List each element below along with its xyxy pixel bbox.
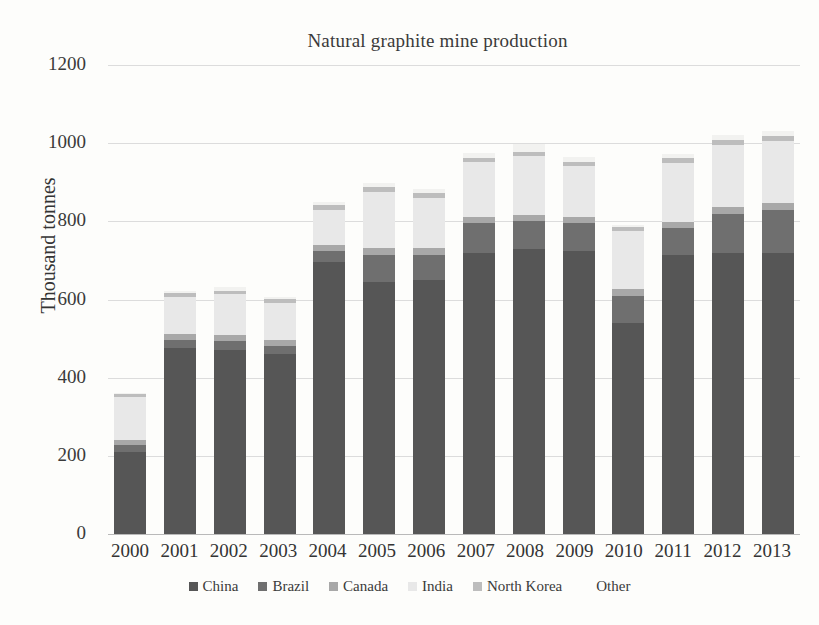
legend-swatch-canada-icon	[329, 582, 338, 591]
bar-segment-brazil-2010[interactable]	[612, 296, 644, 323]
legend-swatch-other-icon	[582, 582, 591, 591]
y-axis-title: Thousand tonnes	[37, 136, 60, 356]
bar-segment-india-2012[interactable]	[712, 145, 744, 208]
y-tick-label-800: 800	[6, 209, 86, 231]
bar-series-group	[108, 65, 800, 534]
bar-segment-china-2010[interactable]	[612, 323, 644, 534]
bar-segment-china-2013[interactable]	[762, 253, 794, 534]
bar-segment-india-2005[interactable]	[363, 192, 395, 249]
bar-segment-brazil-2000[interactable]	[114, 445, 146, 452]
bar-segment-other-2008[interactable]	[513, 144, 545, 152]
legend-item-india[interactable]: India	[408, 578, 453, 595]
bar-segment-india-2004[interactable]	[313, 210, 345, 245]
bar-segment-india-2007[interactable]	[463, 162, 495, 217]
bar-segment-china-2011[interactable]	[662, 255, 694, 534]
bar-segment-brazil-2009[interactable]	[563, 223, 595, 250]
y-tick-label-600: 600	[6, 288, 86, 310]
bar-segment-china-2004[interactable]	[313, 262, 345, 534]
bar-segment-brazil-2013[interactable]	[762, 210, 794, 253]
legend-swatch-brazil-icon	[258, 582, 267, 591]
bar-segment-brazil-2005[interactable]	[363, 255, 395, 282]
plot-area: 020040060080010001200	[108, 65, 800, 534]
y-tick-label-0: 0	[6, 522, 86, 544]
bar-segment-india-2010[interactable]	[612, 231, 644, 290]
y-tick-label-200: 200	[6, 444, 86, 466]
bar-segment-brazil-2011[interactable]	[662, 228, 694, 255]
bar-column-2011[interactable]	[662, 65, 694, 534]
bar-segment-china-2005[interactable]	[363, 282, 395, 534]
bar-column-2013[interactable]	[762, 65, 794, 534]
bar-segment-china-2012[interactable]	[712, 253, 744, 534]
bar-column-2000[interactable]	[114, 65, 146, 534]
bar-segment-brazil-2012[interactable]	[712, 214, 744, 253]
bar-segment-india-2009[interactable]	[563, 166, 595, 217]
x-tick-label-2013: 2013	[750, 540, 794, 562]
bar-column-2007[interactable]	[463, 65, 495, 534]
bar-column-2002[interactable]	[214, 65, 246, 534]
bar-column-2008[interactable]	[513, 65, 545, 534]
bar-segment-brazil-2008[interactable]	[513, 221, 545, 248]
legend-swatch-india-icon	[408, 582, 417, 591]
legend-swatch-north-korea-icon	[473, 582, 482, 591]
bar-segment-brazil-2003[interactable]	[264, 346, 296, 355]
bar-segment-brazil-2002[interactable]	[214, 341, 246, 350]
legend-item-north-korea[interactable]: North Korea	[473, 578, 562, 595]
bar-column-2005[interactable]	[363, 65, 395, 534]
legend-item-other[interactable]: Other	[582, 578, 630, 595]
bar-column-2009[interactable]	[563, 65, 595, 534]
bar-segment-china-2008[interactable]	[513, 249, 545, 534]
legend-swatch-china-icon	[189, 582, 198, 591]
bar-segment-china-2007[interactable]	[463, 253, 495, 534]
bar-segment-india-2001[interactable]	[164, 297, 196, 334]
x-tick-label-2006: 2006	[404, 540, 448, 562]
chart-figure: Natural graphite mine production Thousan…	[0, 0, 819, 625]
chart-title: Natural graphite mine production	[0, 30, 819, 52]
y-tick-label-1200: 1200	[6, 53, 86, 75]
x-tick-label-2012: 2012	[701, 540, 745, 562]
bar-segment-china-2006[interactable]	[413, 280, 445, 534]
legend-item-brazil[interactable]: Brazil	[258, 578, 309, 595]
legend-item-china[interactable]: China	[189, 578, 239, 595]
y-tick-label-400: 400	[6, 366, 86, 388]
x-tick-label-2011: 2011	[651, 540, 695, 562]
legend-item-canada[interactable]: Canada	[329, 578, 388, 595]
x-tick-label-2005: 2005	[355, 540, 399, 562]
legend-label: Canada	[343, 578, 388, 595]
bar-segment-china-2000[interactable]	[114, 452, 146, 534]
bar-column-2006[interactable]	[413, 65, 445, 534]
bar-segment-china-2009[interactable]	[563, 251, 595, 534]
bar-segment-brazil-2001[interactable]	[164, 340, 196, 349]
y-tick-label-1000: 1000	[6, 131, 86, 153]
legend-label: Brazil	[272, 578, 309, 595]
x-tick-label-2010: 2010	[602, 540, 646, 562]
bar-segment-china-2002[interactable]	[214, 350, 246, 534]
bar-segment-china-2003[interactable]	[264, 354, 296, 534]
bar-column-2001[interactable]	[164, 65, 196, 534]
x-axis-labels: 2000200120022003200420052006200720082009…	[108, 540, 800, 562]
bar-segment-india-2006[interactable]	[413, 198, 445, 249]
bar-segment-china-2001[interactable]	[164, 348, 196, 534]
x-tick-label-2003: 2003	[256, 540, 300, 562]
bar-segment-india-2011[interactable]	[662, 163, 694, 222]
bar-column-2012[interactable]	[712, 65, 744, 534]
x-tick-label-2001: 2001	[157, 540, 201, 562]
bar-segment-brazil-2007[interactable]	[463, 223, 495, 252]
gridline-0	[108, 534, 800, 535]
bar-segment-brazil-2006[interactable]	[413, 255, 445, 280]
bar-segment-brazil-2004[interactable]	[313, 251, 345, 262]
bar-segment-india-2013[interactable]	[762, 141, 794, 204]
bar-segment-india-2003[interactable]	[264, 303, 296, 340]
bar-column-2004[interactable]	[313, 65, 345, 534]
chart-title-text: Natural graphite mine production	[307, 30, 567, 51]
x-tick-label-2002: 2002	[207, 540, 251, 562]
bar-column-2003[interactable]	[264, 65, 296, 534]
x-tick-label-2008: 2008	[503, 540, 547, 562]
x-tick-label-2009: 2009	[552, 540, 596, 562]
x-tick-label-2007: 2007	[454, 540, 498, 562]
bar-segment-india-2002[interactable]	[214, 294, 246, 335]
x-tick-label-2000: 2000	[108, 540, 152, 562]
legend-label: India	[422, 578, 453, 595]
bar-segment-india-2000[interactable]	[114, 397, 146, 440]
bar-column-2010[interactable]	[612, 65, 644, 534]
bar-segment-india-2008[interactable]	[513, 156, 545, 215]
